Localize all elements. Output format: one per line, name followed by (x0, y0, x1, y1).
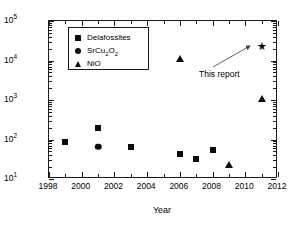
y-minor-tick-right (273, 141, 276, 142)
x-tick (49, 172, 50, 177)
y-minor-tick-right (273, 64, 276, 65)
x-minor-tick (164, 174, 165, 177)
y-minor-tick-right (273, 104, 276, 105)
y-minor-tick-right (273, 109, 276, 110)
y-minor-tick-right (273, 151, 276, 152)
x-minor-tick (131, 174, 132, 177)
y-minor-tick (49, 141, 52, 142)
x-tick-label: 2006 (169, 182, 188, 191)
y-minor-tick (49, 30, 52, 31)
y-minor-tick-right (273, 33, 276, 34)
x-tick-top (82, 21, 83, 26)
y-minor-tick (49, 112, 52, 113)
y-minor-tick (49, 33, 52, 34)
y-minor-tick (49, 146, 52, 147)
y-minor-tick-right (273, 116, 276, 117)
y-minor-tick (49, 121, 52, 122)
y-minor-tick-right (273, 121, 276, 122)
y-minor-tick-right (273, 128, 276, 129)
x-minor-tick (65, 174, 66, 177)
legend-item-srcu2o2: SrCu2O2 (75, 45, 148, 57)
data-point-square (177, 151, 183, 157)
x-tick-label: 2010 (235, 182, 254, 191)
x-tick-top (180, 21, 181, 26)
y-minor-tick (49, 76, 52, 77)
y-minor-tick-right (273, 76, 276, 77)
y-minor-tick (49, 109, 52, 110)
y-minor-tick (49, 37, 52, 38)
x-tick-top (49, 21, 50, 26)
x-tick-label: 2000 (71, 182, 90, 191)
data-point-triangle (225, 161, 233, 168)
y-minor-tick-right (273, 106, 276, 107)
data-point-triangle (176, 55, 184, 62)
x-minor-tick-top (164, 21, 165, 24)
y-minor-tick (49, 88, 52, 89)
y-minor-tick-right (273, 112, 276, 113)
x-tick (213, 172, 214, 177)
data-point-star: ★ (257, 41, 267, 52)
y-minor-tick-right (273, 88, 276, 89)
y-minor-tick (49, 160, 52, 161)
triangle-marker-icon (75, 61, 87, 67)
x-minor-tick-top (131, 21, 132, 24)
x-minor-tick (229, 174, 230, 177)
y-minor-tick (49, 104, 52, 105)
y-minor-tick-right (273, 23, 276, 24)
x-tick (180, 172, 181, 177)
x-tick-top (245, 21, 246, 26)
legend-label-srcu2o2: SrCu2O2 (87, 47, 118, 55)
y-minor-tick (49, 102, 52, 103)
legend-item-nio: NiO (75, 58, 148, 70)
x-minor-tick (196, 174, 197, 177)
x-tick-top (213, 21, 214, 26)
y-minor-tick (49, 49, 52, 50)
x-tick (147, 172, 148, 177)
x-minor-tick-top (262, 21, 263, 24)
y-minor-tick-right (273, 62, 276, 63)
x-minor-tick-top (196, 21, 197, 24)
circle-marker-icon (75, 48, 87, 54)
y-minor-tick (49, 62, 52, 63)
y-tick-right (271, 179, 276, 180)
y-minor-tick (49, 72, 52, 73)
x-tick-label: 2004 (137, 182, 156, 191)
y-minor-tick (49, 116, 52, 117)
y-tick-label: 105 (4, 16, 17, 25)
y-minor-tick-right (273, 155, 276, 156)
legend-item-delafossites: Delafossites (75, 32, 148, 44)
x-minor-tick-top (98, 21, 99, 24)
y-minor-tick-right (273, 81, 276, 82)
y-minor-tick (49, 64, 52, 65)
y-minor-tick (49, 155, 52, 156)
y-tick-label: 101 (4, 174, 17, 183)
y-minor-tick-right (273, 67, 276, 68)
x-tick (278, 172, 279, 177)
x-tick-top (278, 21, 279, 26)
x-minor-tick (98, 174, 99, 177)
x-tick-top (114, 21, 115, 26)
y-minor-tick (49, 106, 52, 107)
data-point-triangle (258, 95, 266, 102)
annotation-this-report: This report (199, 70, 240, 79)
y-minor-tick (49, 143, 52, 144)
x-axis-title: Year (153, 205, 171, 215)
y-tick-label: 102 (4, 134, 17, 143)
data-point-circle (95, 144, 102, 151)
x-tick-label: 2008 (202, 182, 221, 191)
y-minor-tick-right (273, 72, 276, 73)
y-minor-tick-right (273, 102, 276, 103)
legend-label-delafossites: Delafossites (87, 34, 131, 42)
y-tick-label: 104 (4, 55, 17, 64)
y-tick-label: 103 (4, 95, 17, 104)
y-minor-tick-right (273, 27, 276, 28)
y-minor-tick (49, 151, 52, 152)
y-tick (49, 179, 54, 180)
y-minor-tick-right (273, 146, 276, 147)
y-minor-tick-right (273, 69, 276, 70)
y-minor-tick (49, 69, 52, 70)
y-minor-tick (49, 148, 52, 149)
x-tick (114, 172, 115, 177)
y-minor-tick (49, 27, 52, 28)
y-minor-tick-right (273, 25, 276, 26)
